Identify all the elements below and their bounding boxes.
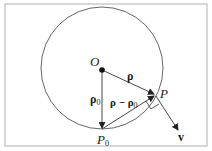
label-o: O [90, 54, 100, 69]
label-rho-minus-rho0: ρ − ρ0 [110, 96, 138, 110]
label-p: P [159, 86, 168, 101]
figure-frame [5, 4, 207, 146]
vector-v [156, 96, 178, 130]
point-o [99, 67, 105, 73]
label-p0: P0 [96, 132, 109, 148]
label-rho0: ρ0 [90, 92, 100, 107]
diagram-canvas: O ρ P ρ0 ρ − ρ0 P0 v [0, 0, 212, 151]
label-rho: ρ [127, 69, 133, 83]
label-v: v [178, 130, 184, 144]
